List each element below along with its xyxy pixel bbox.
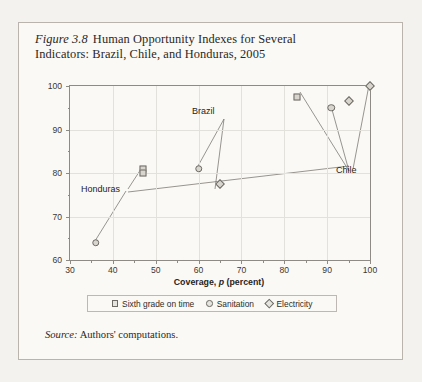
data-point-circle [195, 165, 203, 173]
data-point-diamond [365, 81, 375, 91]
source-note: Source: Authors' computations. [45, 329, 178, 340]
y-tick-minor [68, 151, 71, 152]
y-tick [66, 173, 70, 174]
x-tick-minor [263, 260, 264, 263]
chart-legend: Sixth grade on timeSanitationElectricity [87, 295, 337, 312]
x-tick-label: 90 [322, 265, 332, 275]
legend-circle-icon [206, 300, 213, 307]
y-tick [66, 86, 70, 87]
x-tick-minor [306, 260, 307, 263]
figure-title: Figure 3.8Human Opportunity Indexes for … [35, 32, 385, 62]
x-tick [241, 260, 242, 264]
x-tick [199, 260, 200, 264]
y-tick-label: 80 [52, 168, 62, 178]
figure-title-line1: Human Opportunity Indexes for Several [93, 32, 296, 46]
annotation-label-chile: Chile [336, 165, 357, 175]
x-tick-minor [349, 260, 350, 263]
legend-square-icon [112, 300, 119, 307]
data-point-diamond [215, 179, 225, 189]
x-tick [327, 260, 328, 264]
y-tick-label: 100 [48, 81, 62, 91]
y-tick-label: 90 [52, 125, 62, 135]
y-tick-label: 60 [52, 255, 62, 265]
legend-item-diamond[interactable]: Electricity [266, 299, 312, 309]
x-tick [370, 260, 371, 264]
y-tick [66, 260, 70, 261]
x-tick [156, 260, 157, 264]
x-axis-title: Coverage, p (percent) [69, 277, 369, 287]
figure-container: Figure 3.8Human Opportunity Indexes for … [18, 22, 403, 360]
data-point-diamond [344, 96, 354, 106]
y-tick [66, 130, 70, 131]
x-tick [284, 260, 285, 264]
gridline-horizontal [70, 130, 370, 131]
x-tick-label: 70 [237, 265, 247, 275]
x-tick [113, 260, 114, 264]
legend-label: Sixth grade on time [122, 299, 194, 309]
legend-diamond-icon [265, 299, 274, 308]
legend-item-circle[interactable]: Sanitation [206, 299, 254, 309]
x-tick-minor [177, 260, 178, 263]
y-tick-label: 70 [52, 212, 62, 222]
y-tick [66, 217, 70, 218]
data-point-circle [328, 104, 336, 112]
legend-label: Electricity [277, 299, 313, 309]
y-tick-minor [68, 238, 71, 239]
y-tick-minor [68, 195, 71, 196]
legend-item-square[interactable]: Sixth grade on time [112, 299, 195, 309]
legend-label: Sanitation [217, 299, 254, 309]
x-tick-label: 60 [194, 265, 204, 275]
x-tick [70, 260, 71, 264]
x-tick-minor [134, 260, 135, 263]
data-point-square [139, 170, 146, 177]
x-tick-minor [220, 260, 221, 263]
gridline-horizontal [70, 217, 370, 218]
annotation-label-brazil: Brazil [192, 106, 215, 116]
data-point-square [294, 93, 301, 100]
data-point-circle [92, 239, 100, 247]
y-tick-minor [68, 108, 71, 109]
x-tick-label: 30 [65, 265, 75, 275]
x-tick-label: 40 [108, 265, 118, 275]
gridline-horizontal [70, 173, 370, 174]
annotation-label-honduras: Honduras [81, 184, 120, 194]
x-tick-label: 100 [363, 265, 377, 275]
figure-title-line2: Indicators: Brazil, Chile, and Honduras,… [35, 47, 265, 61]
source-prefix: Source: [45, 329, 78, 340]
source-text: Authors' computations. [80, 329, 178, 340]
plot-area: 3040506070809010060708090100 [69, 85, 371, 261]
x-tick-minor [91, 260, 92, 263]
figure-number: Figure 3.8 [35, 32, 88, 46]
x-tick-label: 50 [151, 265, 161, 275]
x-tick-label: 80 [280, 265, 290, 275]
